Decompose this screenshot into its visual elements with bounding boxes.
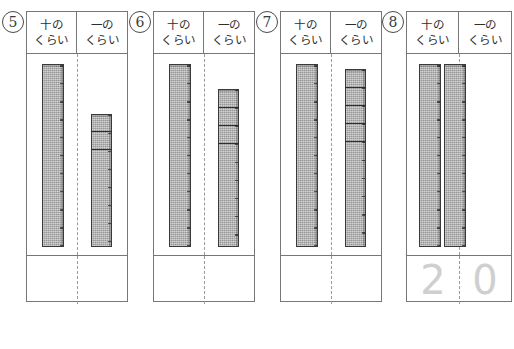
problem-number-7: 7 [256, 11, 278, 33]
header-tens-line2: くらい [34, 33, 69, 48]
center-divider [77, 54, 78, 255]
blocks-area-7 [281, 54, 381, 256]
rod-ticks [437, 65, 440, 246]
ones-rod [345, 69, 366, 247]
place-value-table-5: 十の くらい 一の くらい [26, 11, 128, 302]
header-tens-place: 十の くらい [27, 12, 77, 53]
header-tens-line1: 十の [294, 18, 317, 33]
header-tens-line1: 十の [421, 18, 444, 33]
header-ones-line2: くらい [212, 33, 247, 48]
header-ones-line2: くらい [339, 33, 374, 48]
rod-ticks [187, 65, 190, 246]
center-divider [204, 54, 205, 255]
blocks-area-5 [27, 54, 127, 256]
answer-area-6[interactable] [154, 256, 254, 304]
answer-area-7[interactable] [281, 256, 381, 304]
ones-rod [218, 89, 239, 247]
blocks-area-8 [407, 54, 511, 256]
answer-tens-digit[interactable]: 2 [407, 260, 459, 300]
header-tens-place: 十の くらい [281, 12, 331, 53]
header-ones-place: 一の くらい [77, 12, 127, 53]
table-header-row: 十の くらい 一の くらい [27, 12, 127, 54]
blocks-area-6 [154, 54, 254, 256]
header-ones-place: 一の くらい [204, 12, 254, 53]
answer-area-8[interactable]: 2 0 [407, 256, 511, 304]
tens-rod [169, 64, 191, 247]
center-divider [77, 256, 78, 304]
rod-ticks [362, 70, 365, 246]
tens-rod [419, 64, 441, 247]
table-header-row: 十の くらい 一の くらい [407, 12, 511, 54]
header-tens-line2: くらい [288, 33, 323, 48]
header-ones-line2: くらい [85, 33, 120, 48]
problem-7: 7 十の くらい 一の くらい [256, 0, 382, 349]
ones-rod [91, 114, 112, 247]
rod-ticks [314, 65, 317, 246]
header-ones-line1: 一の [91, 18, 114, 33]
header-tens-line2: くらい [161, 33, 196, 48]
place-value-worksheet: 5 十の くらい 一の くらい [0, 0, 514, 349]
header-ones-line1: 一の [474, 18, 497, 33]
rod-ticks [108, 115, 111, 246]
center-divider [331, 256, 332, 304]
problem-number-6: 6 [129, 11, 151, 33]
table-header-row: 十の くらい 一の くらい [281, 12, 381, 54]
header-tens-line1: 十の [40, 18, 63, 33]
header-tens-line1: 十の [167, 18, 190, 33]
problem-5: 5 十の くらい 一の くらい [2, 0, 128, 349]
header-tens-place: 十の くらい [154, 12, 204, 53]
header-tens-place: 十の くらい [407, 12, 459, 53]
answer-area-5[interactable] [27, 256, 127, 304]
problem-number-8: 8 [382, 11, 404, 33]
rod-ticks [235, 90, 238, 246]
answer-ones-digit[interactable]: 0 [459, 260, 511, 300]
header-ones-line1: 一の [218, 18, 241, 33]
center-divider [331, 54, 332, 255]
header-ones-place: 一の くらい [331, 12, 381, 53]
header-tens-line2: くらい [415, 33, 450, 48]
tens-rod [42, 64, 64, 247]
header-ones-line2: くらい [468, 33, 503, 48]
problem-number-5: 5 [2, 11, 24, 33]
tens-rod [444, 64, 466, 247]
place-value-table-8: 十の くらい 一の くらい 2 [406, 11, 512, 302]
place-value-table-7: 十の くらい 一の くらい [280, 11, 382, 302]
table-header-row: 十の くらい 一の くらい [154, 12, 254, 54]
center-divider [204, 256, 205, 304]
problem-6: 6 十の くらい 一の くらい [129, 0, 255, 349]
header-ones-line1: 一の [345, 18, 368, 33]
problem-8: 8 十の くらい 一の くらい [382, 0, 512, 349]
rod-ticks [60, 65, 63, 246]
rod-ticks [462, 65, 465, 246]
header-ones-place: 一の くらい [459, 12, 511, 53]
tens-rod [296, 64, 318, 247]
place-value-table-6: 十の くらい 一の くらい [153, 11, 255, 302]
